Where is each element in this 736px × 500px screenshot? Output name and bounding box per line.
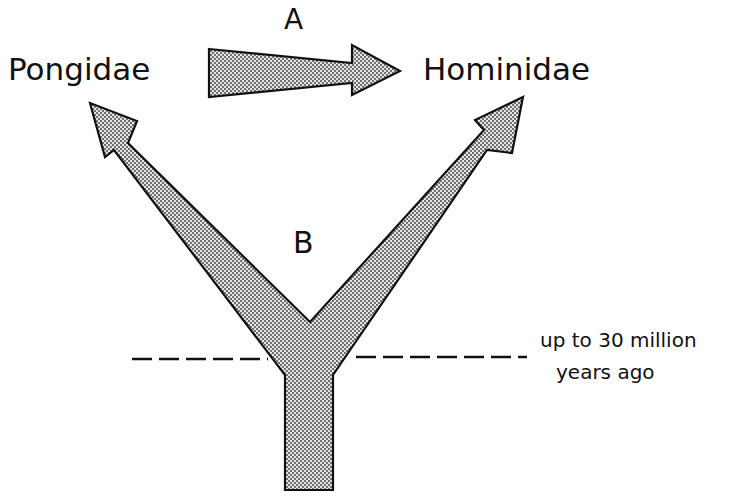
arrow-a-label: A xyxy=(284,6,303,34)
hominidae-label: Hominidae xyxy=(423,54,590,85)
time-label-line1: up to 30 million xyxy=(540,330,697,350)
arrow-b-shape xyxy=(90,97,523,490)
arrow-a-shape xyxy=(209,45,400,97)
arrow-b-label: B xyxy=(293,228,314,258)
time-label-line2: years ago xyxy=(556,362,655,382)
pongidae-label: Pongidae xyxy=(8,54,150,85)
